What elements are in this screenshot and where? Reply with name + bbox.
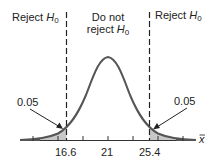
right-area-arrow <box>153 108 187 130</box>
tick-label-lower-critical: 16.6 <box>55 146 76 158</box>
left-h-subscript: 0 <box>54 16 58 25</box>
right-reject-label: Reject H0 <box>155 9 202 25</box>
right-h-symbol: H <box>189 9 197 21</box>
do-not-reject-label: Do not reject H0 <box>76 11 140 39</box>
tick-label-mean: 21 <box>101 146 113 158</box>
middle-reject-text: reject <box>87 23 114 35</box>
left-area-arrow <box>30 109 63 129</box>
right-reject-text: Reject <box>155 9 186 21</box>
left-h-symbol: H <box>46 11 54 23</box>
hypothesis-test-diagram: Reject H0 Do not reject H0 Reject H0 0.0… <box>0 0 214 160</box>
middle-h-subscript: 0 <box>125 28 129 37</box>
do-not-text: Do not <box>76 11 140 23</box>
middle-h-symbol: H <box>117 23 125 35</box>
reject-h0-line: reject H0 <box>76 23 140 39</box>
left-reject-text: Reject <box>12 11 43 23</box>
x-bar-label: x <box>199 133 205 145</box>
right-tail-area-label: 0.05 <box>174 95 195 107</box>
normal-curve <box>20 57 196 140</box>
right-h-subscript: 0 <box>197 14 201 23</box>
left-tail-area-label: 0.05 <box>17 96 38 108</box>
left-reject-label: Reject H0 <box>12 11 59 27</box>
tick-label-upper-critical: 25.4 <box>139 146 160 158</box>
